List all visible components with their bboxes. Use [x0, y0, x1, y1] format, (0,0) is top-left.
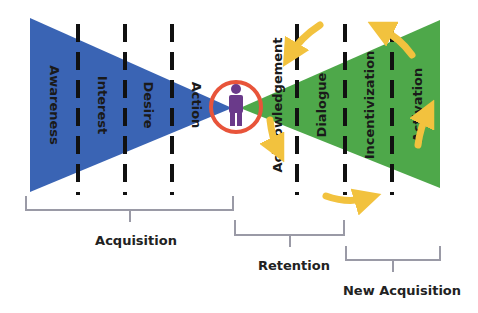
person-icon: [229, 84, 243, 126]
stage-awareness: Awareness: [47, 65, 62, 145]
stage-dialogue: Dialogue: [314, 72, 329, 137]
stage-incentivization: Incentivization: [362, 51, 377, 160]
arrow-icon: [290, 25, 320, 55]
stage-action: Action: [189, 82, 204, 129]
brace-new-acquisition: [346, 246, 440, 272]
label-acquisition: Acquisition: [95, 233, 177, 248]
arrow-icon: [326, 196, 368, 201]
brace-acquisition: [26, 196, 233, 222]
braces: [26, 196, 440, 272]
brace-retention: [235, 220, 344, 247]
label-new-acquisition: New Acquisition: [343, 283, 461, 298]
stage-interest: Interest: [95, 76, 110, 134]
label-retention: Retention: [258, 258, 330, 273]
stage-desire: Desire: [141, 81, 156, 128]
bowtie-diagram: Awareness Interest Desire Action Acknowl…: [0, 0, 478, 313]
